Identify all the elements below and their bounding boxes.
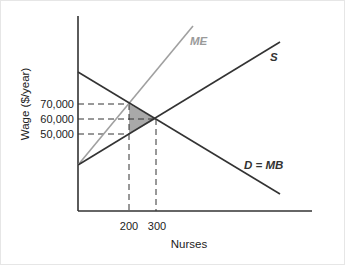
- y-tick-60000: 60,000: [40, 113, 74, 125]
- y-tick-70000: 70,000: [40, 98, 74, 110]
- me-label: ME: [190, 35, 208, 47]
- s-label: S: [270, 51, 278, 63]
- y-axis-title: Wage ($/year): [19, 68, 31, 141]
- x-tick-300: 300: [148, 220, 166, 232]
- d-label: D = MB: [244, 159, 283, 171]
- me-curve: [78, 26, 193, 165]
- demand-curve: [78, 72, 280, 194]
- x-axis-title: Nurses: [171, 238, 208, 250]
- y-tick-50000: 50,000: [40, 128, 74, 140]
- x-tick-200: 200: [120, 220, 138, 232]
- chart: ME S D = MB 70,000 60,000 50,000 200 300…: [0, 0, 345, 265]
